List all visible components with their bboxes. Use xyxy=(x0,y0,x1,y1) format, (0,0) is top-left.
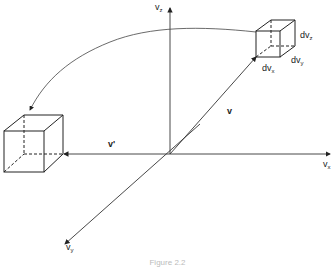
small-cube xyxy=(256,20,295,57)
vy-label-sub: y xyxy=(71,247,74,253)
vz-label-sub: z xyxy=(160,7,163,13)
v-prime-vector-label: v' xyxy=(108,140,115,149)
v-vector xyxy=(170,57,256,154)
dvz-label-sub: z xyxy=(310,35,313,41)
dvx-label-base: dv xyxy=(262,63,272,73)
vz-axis-label: vz xyxy=(155,3,163,13)
dvy-label: dvy xyxy=(291,56,304,66)
dvx-label: dvx xyxy=(262,64,275,74)
dvy-label-sub: y xyxy=(301,60,304,66)
v-vector-label: v xyxy=(227,107,232,116)
vy-axis xyxy=(65,124,200,244)
transform-arc-arrow xyxy=(30,28,256,110)
dvy-label-base: dv xyxy=(291,55,301,65)
dvz-label-base: dv xyxy=(300,30,310,40)
vy-axis-label: vy xyxy=(66,243,74,253)
vx-axis-label: vx xyxy=(323,160,331,170)
large-cube xyxy=(4,115,63,172)
figure-caption: Figure 2.2 xyxy=(0,258,335,267)
dvz-label: dvz xyxy=(300,31,313,41)
dvx-label-sub: x xyxy=(272,68,275,74)
vx-label-sub: x xyxy=(328,164,331,170)
